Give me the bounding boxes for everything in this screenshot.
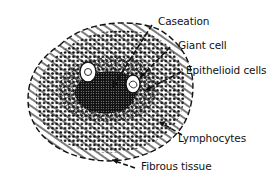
granuloma-diagram: Caseation Giant cell Epithelioid cells L… [0,0,280,181]
giant-cell-right [126,75,140,93]
giant-cell-left [80,62,96,82]
label-giant-cell: Giant cell [178,39,227,51]
granuloma-illustration [0,0,280,181]
label-lymphocytes: Lymphocytes [178,132,246,144]
label-caseation: Caseation [158,15,209,27]
label-epithelioid-cells: Epithelioid cells [186,64,266,76]
label-fibrous-tissue: Fibrous tissue [141,160,212,172]
